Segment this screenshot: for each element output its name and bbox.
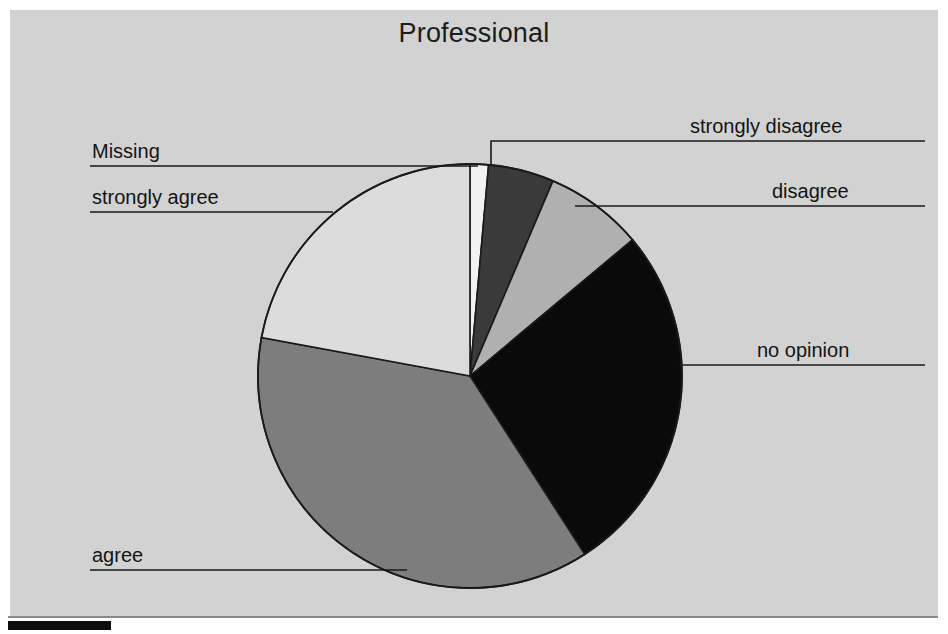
slice-label-agree: agree: [92, 545, 143, 566]
pie-graphic: [0, 0, 948, 634]
slice-label-strongly-agree: strongly agree: [92, 187, 219, 208]
slice-label-disagree: disagree: [772, 181, 849, 202]
leader-line-strongly-disagree: [491, 141, 925, 166]
slice-label-missing: Missing: [92, 141, 160, 162]
slice-label-strongly-disagree: strongly disagree: [690, 116, 842, 137]
bottom-divider: [8, 616, 938, 618]
bottom-black-bar: [8, 621, 111, 630]
pie-chart-figure: Professional strongly: [0, 0, 948, 634]
slice-label-no-opinion: no opinion: [757, 340, 849, 361]
